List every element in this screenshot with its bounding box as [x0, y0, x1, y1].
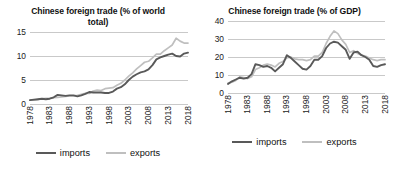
x-axis-gdp: 197819831988199319982003200820132018	[196, 93, 393, 135]
plot-inner-world-total: 051015	[30, 32, 188, 104]
series-lines	[228, 21, 385, 93]
x-axis-tick-label: 2003	[124, 106, 133, 125]
y-axis-tick-label: 40	[215, 17, 228, 26]
legend-item-imports[interactable]: imports	[232, 137, 286, 147]
series-line-exports	[30, 38, 188, 100]
x-axis-world-total: 197819831988199319982003200820132018	[0, 104, 196, 146]
legend-world-total: imports exports	[0, 148, 196, 158]
y-axis-tick-label: 20	[215, 53, 228, 62]
series-lines	[30, 32, 188, 104]
line-swatch-icon	[106, 152, 126, 154]
legend-item-imports[interactable]: imports	[36, 148, 90, 158]
chart-title: Chinese foreign trade (% of GDP)	[196, 0, 393, 17]
x-axis-tick-label: 1978	[224, 95, 233, 114]
legend-gdp: imports exports	[196, 137, 393, 147]
plot-area-world-total: 051015	[0, 32, 196, 104]
chart-panel-gdp: Chinese foreign trade (% of GDP) 0102030…	[196, 0, 393, 173]
x-axis-tick-label: 1978	[26, 106, 35, 125]
charts-row: Chinese foreign trade (% of world total)…	[0, 0, 393, 173]
y-axis-tick-label: 15	[17, 28, 30, 37]
plot-area-gdp: 010203040	[196, 21, 393, 93]
x-axis-tick-label: 2013	[164, 106, 173, 125]
legend-item-exports[interactable]: exports	[302, 137, 356, 147]
x-axis-ticks: 197819831988199319982003200820132018	[30, 104, 188, 146]
legend-label-exports: exports	[326, 137, 356, 147]
y-axis-tick-label: 5	[21, 76, 30, 85]
x-axis-tick-label: 1983	[45, 106, 54, 125]
x-axis-tick-label: 1988	[65, 106, 74, 125]
legend-label-exports: exports	[130, 148, 160, 158]
x-axis-tick-label: 1993	[282, 95, 291, 114]
line-swatch-icon	[36, 152, 56, 154]
y-axis-tick-label: 30	[215, 35, 228, 44]
y-axis-tick-label: 10	[215, 71, 228, 80]
x-axis-tick-label: 2008	[144, 106, 153, 125]
x-axis-tick-label: 1998	[105, 106, 114, 125]
legend-item-exports[interactable]: exports	[106, 148, 160, 158]
x-axis-tick-label: 1988	[263, 95, 272, 114]
x-axis-tick-label: 2018	[381, 95, 390, 114]
line-swatch-icon	[302, 141, 322, 143]
series-line-imports	[30, 53, 188, 101]
line-swatch-icon	[232, 141, 252, 143]
chart-title: Chinese foreign trade (% of world total)	[0, 0, 196, 28]
x-axis-tick-label: 1983	[243, 95, 252, 114]
x-axis-tick-label: 2003	[322, 95, 331, 114]
x-axis-tick-label: 2008	[341, 95, 350, 114]
legend-label-imports: imports	[256, 137, 286, 147]
x-axis-tick-label: 1993	[85, 106, 94, 125]
y-axis-tick-label: 10	[17, 52, 30, 61]
legend-label-imports: imports	[60, 148, 90, 158]
chart-panel-world-total: Chinese foreign trade (% of world total)…	[0, 0, 196, 173]
plot-inner-gdp: 010203040	[228, 21, 385, 93]
x-axis-ticks: 197819831988199319982003200820132018	[228, 93, 385, 135]
x-axis-tick-label: 1998	[302, 95, 311, 114]
x-axis-tick-label: 2013	[361, 95, 370, 114]
x-axis-tick-label: 2018	[184, 106, 193, 125]
